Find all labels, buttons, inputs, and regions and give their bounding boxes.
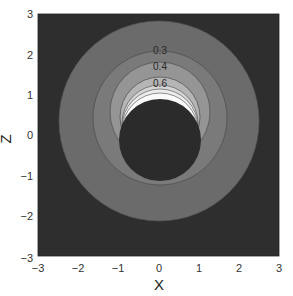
x-axis: −3 −2 −1 0 1 2 3 X <box>32 262 282 293</box>
y-tick-label: 3 <box>27 8 33 20</box>
y-tick-label: −1 <box>20 170 33 182</box>
y-tick-label: 2 <box>27 49 33 61</box>
contour-label-0.6: 0.6 <box>153 78 167 89</box>
excluded-disk <box>119 99 201 181</box>
y-tick-label: −2 <box>20 210 33 222</box>
contour-label-0.3: 0.3 <box>153 45 167 56</box>
y-axis-label: Z <box>0 134 14 143</box>
x-tick-label: −2 <box>72 262 85 274</box>
x-axis-label: X <box>154 276 164 293</box>
contour-label-0.4: 0.4 <box>153 61 167 72</box>
x-tick-label: 2 <box>236 262 242 274</box>
x-tick-label: −1 <box>112 262 125 274</box>
contour-chart: 0.3 0.4 0.6 3 2 1 0 −1 −2 −3 Z −3 −2 −1 … <box>0 0 293 296</box>
x-tick-label: 3 <box>276 262 282 274</box>
y-tick-label: 0 <box>27 129 33 141</box>
x-tick-label: −3 <box>32 262 45 274</box>
x-tick-label: 0 <box>156 262 162 274</box>
y-axis: 3 2 1 0 −1 −2 −3 Z <box>0 8 33 264</box>
y-tick-label: 1 <box>27 89 33 101</box>
x-tick-label: 1 <box>196 262 202 274</box>
